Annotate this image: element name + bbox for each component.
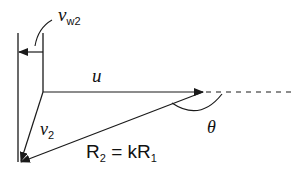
r2-label-eq: = k [111, 141, 137, 162]
r1-label-main: R [137, 141, 151, 162]
v2-label-sub: 2 [48, 129, 54, 141]
v2-label: v2 [40, 120, 54, 138]
r1-label-sub: 1 [151, 152, 157, 164]
u-label-main: u [92, 65, 102, 86]
theta-label-main: θ [207, 117, 216, 137]
theta-angle-arc [172, 94, 222, 111]
vw2-label-sub: w2 [66, 15, 80, 27]
theta-label: θ [207, 118, 216, 136]
v2-label-main: v [40, 119, 48, 139]
r2-label-sub: 2 [100, 152, 106, 164]
u-label: u [92, 66, 102, 85]
r2-equation-label: R2 = kR1 [86, 142, 157, 161]
vw2-label: vw2 [58, 5, 81, 24]
r2-label-main: R [86, 141, 100, 162]
